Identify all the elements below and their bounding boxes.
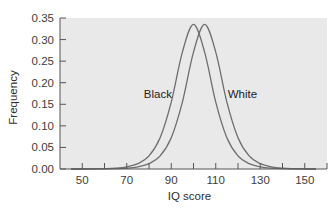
x-axis-title: IQ score: [168, 190, 211, 202]
x-tick-label: 50: [76, 174, 89, 186]
x-tick-label: 150: [295, 174, 314, 186]
series-label-black: Black: [144, 88, 172, 100]
plot-area: [60, 18, 327, 169]
x-tick-label: 110: [207, 174, 225, 186]
y-tick-label: 0.10: [32, 120, 54, 132]
y-tick-label: 0.35: [32, 12, 54, 24]
x-tick-label: 130: [251, 174, 270, 186]
series-label-white: White: [228, 88, 257, 100]
y-axis-title: Frequency: [7, 70, 19, 125]
x-tick-label: 90: [165, 174, 178, 186]
y-tick-label: 0.20: [32, 77, 54, 89]
y-tick-label: 0.25: [32, 55, 54, 67]
iq-distribution-chart: 0.000.050.100.150.200.250.300.3550709011…: [0, 0, 334, 210]
x-tick-label: 70: [120, 174, 133, 186]
y-tick-label: 0.00: [32, 163, 54, 175]
y-tick-label: 0.15: [32, 98, 54, 110]
y-tick-label: 0.30: [32, 34, 54, 46]
y-tick-label: 0.05: [32, 141, 54, 153]
